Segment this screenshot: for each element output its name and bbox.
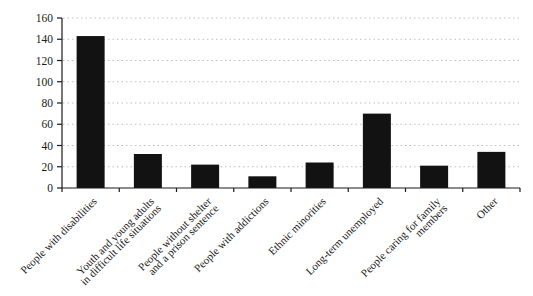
y-tick-label-60: 60	[42, 118, 54, 130]
y-tick-label-160: 160	[36, 12, 54, 24]
bar-6	[420, 166, 448, 188]
y-tick-label-0: 0	[47, 182, 53, 194]
y-tick-label-140: 140	[36, 33, 54, 45]
bar-7	[477, 152, 505, 188]
x-category-label-4: Ethnic minorities	[266, 195, 328, 257]
y-tick-label-40: 40	[42, 140, 54, 152]
bar-chart-figure: 020406080100120140160People with disabil…	[0, 0, 533, 296]
y-tick-label-80: 80	[42, 97, 54, 109]
bar-5	[363, 114, 391, 188]
y-tick-label-120: 120	[36, 55, 54, 67]
bar-chart: 020406080100120140160People with disabil…	[0, 0, 533, 296]
bar-4	[306, 163, 334, 189]
bar-3	[248, 176, 276, 188]
bar-0	[77, 36, 105, 188]
bar-1	[134, 154, 162, 188]
y-tick-label-100: 100	[36, 76, 54, 88]
x-category-label-7: Other	[474, 195, 500, 221]
bar-2	[191, 165, 219, 188]
y-tick-label-20: 20	[42, 161, 54, 173]
